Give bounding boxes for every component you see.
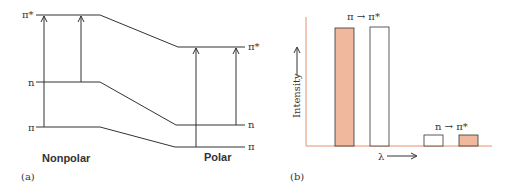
level-label: π* — [248, 41, 260, 52]
polar-label: Polar — [204, 151, 232, 163]
figure: π* n π π* n π Nonpolar Polar (a) π → π* … — [0, 0, 510, 193]
level-label: π* — [22, 9, 34, 20]
n-pi-label: n → π* — [435, 121, 468, 132]
pi-pi-label: π → π* — [347, 11, 380, 22]
level-label: π — [248, 141, 255, 152]
x-axis-label: λ — [378, 151, 417, 162]
svg-text:λ: λ — [378, 151, 385, 162]
nonpolar-label: Nonpolar — [42, 152, 91, 164]
energy-diagram — [36, 15, 245, 147]
svg-text:Intensity: Intensity — [291, 73, 302, 118]
level-label: n — [248, 119, 255, 130]
y-axis-label: Intensity — [291, 47, 302, 118]
level-label: n — [28, 77, 35, 88]
level-label: π — [28, 122, 35, 133]
caption-a: (a) — [21, 171, 35, 182]
caption-b: (b) — [290, 171, 304, 182]
